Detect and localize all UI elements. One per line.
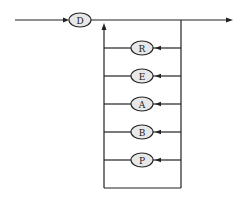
loop-up-arrow-icon	[102, 23, 107, 30]
node-e-label: E	[139, 72, 146, 82]
railroad-diagram: D R E A B	[0, 0, 238, 198]
node-r-label: R	[139, 44, 146, 54]
node-d: D	[69, 13, 91, 27]
arrow-left-icon	[155, 158, 161, 162]
node-p-label: P	[139, 156, 145, 166]
exit-arrow-icon	[226, 18, 233, 23]
node-r: R	[104, 41, 181, 55]
arrow-left-icon	[155, 102, 161, 106]
node-b-label: B	[139, 128, 146, 138]
node-d-label: D	[76, 16, 83, 26]
arrow-left-icon	[155, 130, 161, 134]
arrow-left-icon	[155, 46, 161, 50]
entry-arrow-icon	[63, 18, 69, 23]
node-b: B	[104, 125, 181, 139]
arrow-left-icon	[155, 74, 161, 78]
node-a-label: A	[138, 100, 146, 110]
node-a: A	[104, 97, 181, 111]
node-p: P	[104, 153, 181, 167]
node-e: E	[104, 69, 181, 83]
